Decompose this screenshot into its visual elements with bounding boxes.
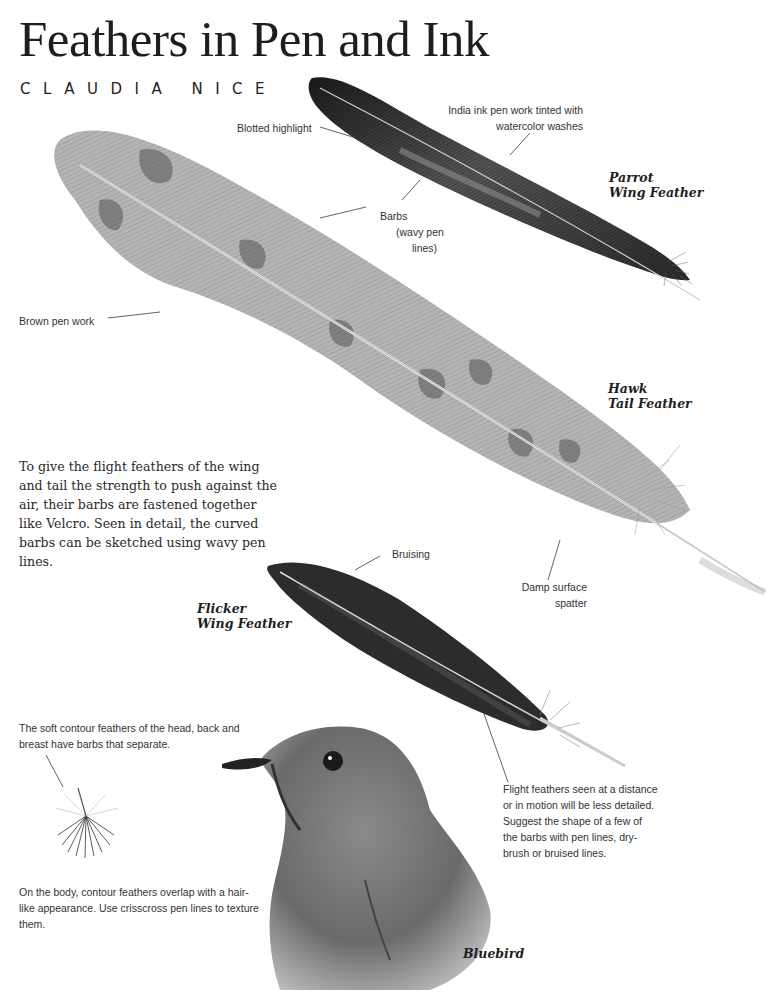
body-paragraph: To give the flight feathers of the wing … [19,457,279,571]
annotation-brown-pen-work: Brown pen work [19,313,94,329]
annotation-bruising: Bruising [392,546,430,562]
annotation-flight-feathers-distance: Flight feathers seen at a distance or in… [503,781,658,861]
species-label-bluebird: Bluebird [463,946,524,961]
annotation-damp-surface: Damp surface spatter [517,579,587,611]
annotation-india-ink: India ink pen work tinted with watercolo… [443,102,583,134]
annotation-contour-feathers: The soft contour feathers of the head, b… [19,720,240,752]
contour-feather-illustration [55,788,118,858]
species-label-hawk: Hawk Tail Feather [608,381,692,411]
species-label-flicker: Flicker Wing Feather [197,601,291,631]
annotation-barbs: Barbs (wavy pen lines) [380,208,444,256]
annotation-blotted-highlight: Blotted highlight [237,120,312,136]
bluebird-illustration [222,727,491,990]
annotation-body-contour: On the body, contour feathers overlap wi… [19,884,259,932]
page-title: Feathers in Pen and Ink [19,14,489,65]
author-name: CLAUDIA NICE [20,80,277,98]
species-label-parrot: Parrot Wing Feather [609,170,703,200]
